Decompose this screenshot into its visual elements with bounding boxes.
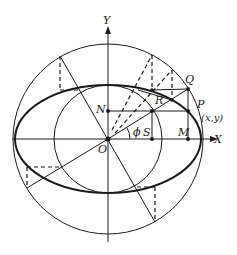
dashed-diagonal-2 [115, 70, 172, 133]
label-Q: Q [185, 73, 194, 86]
label-P-coords: (x,y) [201, 112, 223, 123]
label-S: S [143, 126, 151, 139]
construction-line-upper [152, 89, 188, 90]
label-origin: O [98, 143, 107, 156]
label-y-axis: Y [103, 14, 112, 27]
label-N: N [95, 103, 106, 116]
phi-angle-arc [127, 128, 130, 139]
label-x-axis: X [213, 133, 223, 146]
point-inner [150, 109, 154, 113]
label-phi: ϕ [133, 126, 141, 139]
radius-lower-left [27, 139, 108, 188]
label-M: M [177, 126, 190, 139]
point-R-upper [150, 88, 154, 92]
label-P: P [196, 98, 205, 111]
point-P [186, 109, 190, 113]
label-R: R [154, 94, 163, 107]
diagram-canvas: Y X O N Q P (x,y) R S M ϕ [0, 0, 237, 255]
point-Q [186, 87, 190, 91]
ellipse-construction-diagram: Y X O N Q P (x,y) R S M ϕ [0, 0, 237, 255]
y-axis-arrow-icon [105, 26, 111, 34]
point-R-lower [170, 98, 174, 102]
point-N [106, 109, 110, 113]
point-O [106, 137, 111, 142]
point-S [150, 137, 154, 141]
